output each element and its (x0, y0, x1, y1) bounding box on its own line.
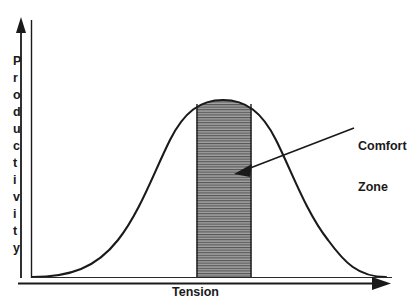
y-axis-label-letter: i (13, 173, 29, 190)
comfort-zone-band (197, 96, 252, 277)
y-axis-label-letter: P (13, 54, 29, 71)
bell-curve-diagram (0, 0, 414, 308)
figure-canvas: Productivity Tension Comfort Zone (0, 0, 414, 308)
y-axis-label-letter: d (13, 105, 29, 122)
annotation-leader-line (245, 128, 354, 170)
y-axis-label-letter: c (13, 139, 29, 156)
y-axis-label: Productivity (13, 54, 29, 258)
annotation-line-1: Comfort (358, 140, 407, 154)
y-axis-label-letter: y (13, 241, 29, 258)
x-axis-label: Tension (172, 286, 219, 299)
y-axis-label-letter: v (13, 190, 29, 207)
y-axis-label-letter: u (13, 122, 29, 139)
y-axis-label-letter: i (13, 207, 29, 224)
annotation-line-2: Zone (358, 181, 407, 195)
y-axis-label-letter: t (13, 156, 29, 173)
y-axis-arrowhead-icon (16, 17, 26, 33)
comfort-zone-annotation-label: Comfort Zone (358, 113, 407, 221)
y-axis-label-letter: t (13, 224, 29, 241)
x-axis-arrowhead-icon (372, 277, 391, 290)
y-axis-label-letter: o (13, 88, 29, 105)
y-axis-label-letter: r (13, 71, 29, 88)
